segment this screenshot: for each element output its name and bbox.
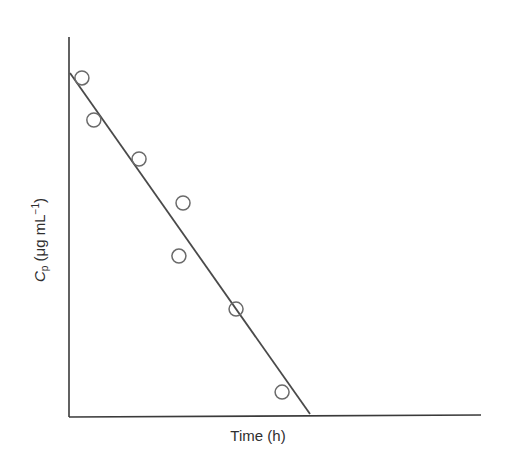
y-axis-superscript: −1 [30, 203, 41, 214]
data-point-marker [87, 113, 101, 127]
data-point-marker [176, 196, 190, 210]
data-point-marker [132, 152, 146, 166]
fit-line [70, 73, 310, 414]
y-axis-unit-close: ) [31, 198, 48, 203]
data-points [75, 71, 289, 399]
data-point-marker [275, 385, 289, 399]
data-point-marker [75, 71, 89, 85]
y-axis-label: Cp (μg mL−1) [30, 198, 50, 282]
x-axis-label: Time (h) [208, 427, 308, 444]
x-axis [69, 415, 481, 417]
y-axis-unit: (μg mL [31, 214, 48, 265]
chart-plot-area [0, 0, 524, 470]
y-axis-subscript: p [39, 266, 50, 272]
data-point-marker [172, 249, 186, 263]
y-axis-symbol: C [31, 271, 48, 282]
